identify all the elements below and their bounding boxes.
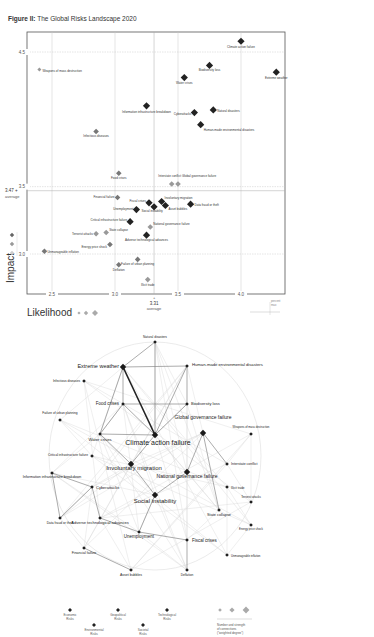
data-point: Natural disasters [210,106,241,113]
x-average-caption: average [147,306,162,311]
data-point: Water crises [176,74,193,85]
legend-category: EnvironmentalRisks [84,623,104,636]
strength-large-icon [243,607,250,614]
risk-marker-icon [145,199,152,206]
point-label: Natural disasters [217,109,240,113]
y-tick-label: 4.5 [19,50,26,55]
point-label: Social instability [141,209,163,213]
data-point: Failure of urban planning [121,257,155,267]
y-tick-label: 3.0 [19,252,26,257]
risk-marker-icon [133,206,140,213]
strength-medium-icon [229,607,234,612]
data-point: Asset bubbles [162,202,188,211]
point-label: Failure of urban planning [121,262,155,266]
point-label: Critical infrastructure failure [91,218,128,222]
data-point: Extreme weather [265,69,288,81]
svg-text:max: max [271,303,277,307]
risks-landscape-scatter: 2.53.03.54.0+3.31average4.53.53.03.47 +a… [0,0,374,330]
network-node: Information infrastructure breakdown [23,471,82,479]
point-label: Infectious diseases [83,134,109,138]
network-edge [155,435,187,540]
node-label: Fiscal crises [192,538,218,543]
network-node: Critical infrastructure failure [48,453,94,458]
node-label: Biodiversity loss [191,401,220,406]
risk-marker-icon [169,181,175,187]
risk-marker-icon [135,257,141,263]
point-label: State collapse [109,228,128,232]
risk-marker-icon [175,181,181,187]
network-node: Financial failure [72,546,97,555]
network-node: Extreme weather [77,363,126,370]
risk-marker-icon [210,106,217,113]
point-label: Water crises [176,81,193,85]
node-label: Weapons of mass destruction [233,425,270,429]
svg-text:+: + [153,295,156,300]
network-edge [100,518,131,570]
network-node: Weapons of mass destruction [233,425,270,436]
network-edge [84,487,92,548]
size-legend-small [77,311,80,314]
node-label: Asset bubbles [120,573,142,577]
network-node: Water crises [88,432,111,442]
risk-marker-icon [147,224,153,230]
y-average-value: 3.47 + [5,188,18,193]
data-point: Social instability [141,203,163,213]
legend-marker-icon [165,608,169,612]
risk-marker-icon [116,170,122,176]
risk-marker-icon [191,109,198,116]
network-node: Unmanageable inflation [225,553,261,558]
network-edge-strong [52,473,60,518]
data-point: Information infrastructure breakdown [122,102,171,114]
legend-category: TechnologicalRisks [158,608,177,621]
point-label: Food crises [111,176,127,180]
network-node: Infectious diseases [53,379,86,383]
legend-category: GeopoliticalRisks [110,608,126,621]
node-label: Human-made environmental disasters [192,362,263,367]
risk-marker-icon [187,201,194,208]
size-legend-large [92,310,98,316]
node-label: Climate action failure [125,439,190,446]
network-node: Biodiversity loss [185,401,219,406]
network-edge-strong [203,433,227,464]
x-tick-label: 2.5 [49,292,56,297]
point-label: Data fraud or theft [195,203,219,207]
node-marker-icon [185,568,189,572]
network-edge [123,367,227,555]
network-edge-strong [100,434,155,435]
network-node: State collapse [207,508,231,517]
node-label: Natural disasters [143,335,167,339]
strength-caption-3: ("weighted degree") [217,631,243,635]
risk-marker-icon [103,230,109,236]
data-point: Illicit trade [141,277,155,287]
point-label: Global governance failure [182,174,217,178]
data-point: Infectious diseases [83,129,109,139]
risk-marker-icon [145,277,151,283]
point-label: Fiscal crises [130,199,147,203]
strength-small-icon [218,608,222,612]
network-edge [227,434,251,464]
risk-marker-icon [143,102,150,109]
network-node: Data fraud or theft [47,516,74,525]
data-point: Energy price shock [81,242,112,249]
legend-marker-icon [92,623,96,627]
network-node: Illicit trade [225,485,245,490]
y-axis-title: Impact [5,253,16,283]
node-label: Infectious diseases [53,379,81,383]
risk-marker-icon [107,242,113,248]
data-point: Fiscal crises [130,199,153,207]
data-point: Unemployment [113,206,140,213]
network-node: Terrorist attacks [241,495,261,504]
legend-marker-icon [68,608,72,612]
risk-marker-icon [93,231,99,237]
node-label: Failure of urban planning [42,411,77,415]
node-label: Data fraud or theft [47,521,74,525]
data-point: Climate action failure [227,38,255,50]
point-label: National governance failure [153,222,190,226]
node-label: Interstate conflict [231,462,257,466]
x-tick-label: 4.0 [238,292,245,297]
legend-label-line2: Risks [163,617,171,621]
node-label: Adverse technological advances [71,520,128,525]
point-label: Weapons of mass destruction [42,69,82,73]
point-label: Asset bubbles [168,207,187,211]
y-tick-label: 3.5 [19,184,26,189]
